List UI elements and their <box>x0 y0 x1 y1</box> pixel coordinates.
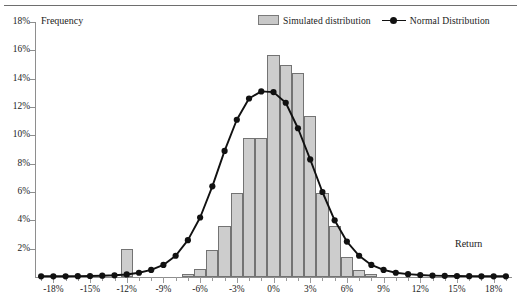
normal-curve-marker-dot <box>466 273 472 279</box>
y-axis-tick-mark <box>30 22 35 23</box>
x-axis-tick-mark <box>408 277 409 281</box>
x-axis-tick-mark <box>237 277 238 283</box>
normal-curve-marker-dot <box>160 262 166 268</box>
x-axis-tick-label: 9% <box>377 284 390 294</box>
plot-area <box>35 22 512 277</box>
x-axis-tick-mark <box>176 277 177 281</box>
normal-curve-marker-dot <box>136 270 142 276</box>
normal-curve-marker-dot <box>197 214 203 220</box>
x-axis-tick-label: -6% <box>192 284 208 294</box>
x-axis-tick-label: 15% <box>448 284 465 294</box>
x-axis-tick-mark <box>212 277 213 281</box>
normal-curve-marker-dot <box>258 88 264 94</box>
normal-curve-marker-dot <box>124 271 130 277</box>
x-axis-tick-mark <box>286 277 287 281</box>
normal-curve-marker-dot <box>185 237 191 243</box>
normal-curve-marker-dot <box>87 273 93 279</box>
line-series-normal-distribution <box>35 22 512 277</box>
normal-curve-marker-dot <box>221 148 227 154</box>
x-axis-tick-label: 18% <box>485 284 502 294</box>
y-axis-tick-label: 8% <box>6 159 30 168</box>
y-axis-tick-mark <box>30 79 35 80</box>
normal-curve-marker-dot <box>454 273 460 279</box>
normal-curve-marker-dot <box>234 117 240 123</box>
x-axis-tick-mark <box>139 277 140 281</box>
x-axis-tick-mark <box>127 277 128 283</box>
normal-curve-marker-dot <box>380 267 386 273</box>
normal-curve-marker-dot <box>209 183 215 189</box>
x-axis-tick-label: -3% <box>229 284 245 294</box>
top-divider-rule <box>4 5 517 6</box>
y-axis-tick-mark <box>30 107 35 108</box>
x-axis-tick-label: 3% <box>304 284 317 294</box>
normal-curve-marker-dot <box>99 273 105 279</box>
x-axis-tick-mark <box>347 277 348 283</box>
x-axis-tick-label: -15% <box>80 284 100 294</box>
x-axis-tick-label: -18% <box>43 284 63 294</box>
normal-curve-marker-dot <box>50 273 56 279</box>
y-axis-tick-label: 12% <box>6 102 30 111</box>
normal-curve-marker-dot <box>148 267 154 273</box>
x-axis-tick-mark <box>200 277 201 283</box>
normal-curve-marker-dot <box>295 125 301 131</box>
normal-curve-marker-dot <box>246 95 252 101</box>
normal-curve-marker-dot <box>270 89 276 95</box>
normal-curve-marker-dot <box>405 271 411 277</box>
distribution-chart-figure: Simulated distribution Normal Distributi… <box>0 0 521 305</box>
normal-curve-marker-dot <box>368 262 374 268</box>
normal-curve-marker-dot <box>429 272 435 278</box>
y-axis-tick-label: 14% <box>6 74 30 83</box>
normal-curve-marker-dot <box>307 156 313 162</box>
normal-curve-marker-dot <box>319 189 325 195</box>
y-axis-tick-labels: 18%16%14%12%10%8%6%4%2% <box>0 0 30 305</box>
y-axis-tick-label: 16% <box>6 45 30 54</box>
y-axis-tick-mark <box>30 135 35 136</box>
normal-curve-marker-dot <box>491 273 497 279</box>
x-axis-tick-mark <box>225 277 226 281</box>
y-axis-tick-mark <box>30 164 35 165</box>
x-axis-tick-mark <box>359 277 360 281</box>
x-axis-tick-label: 0% <box>267 284 280 294</box>
x-axis-tick-mark <box>151 277 152 281</box>
x-axis-tick-mark <box>261 277 262 281</box>
normal-curve-markers <box>38 88 509 279</box>
normal-curve-marker-dot <box>393 270 399 276</box>
y-axis-tick-mark <box>30 50 35 51</box>
normal-curve-marker-dot <box>332 217 338 223</box>
normal-curve-marker-dot <box>62 273 68 279</box>
y-axis-tick-mark <box>30 220 35 221</box>
x-axis-tick-mark <box>335 277 336 281</box>
y-axis-tick-label: 4% <box>6 215 30 224</box>
x-axis-tick-label: 12% <box>412 284 429 294</box>
y-axis-tick-mark <box>30 249 35 250</box>
x-axis-tick-mark <box>396 277 397 281</box>
x-axis-tick-mark <box>188 277 189 281</box>
normal-curve-marker-dot <box>283 100 289 106</box>
y-axis-tick-mark <box>30 192 35 193</box>
normal-curve-marker-dot <box>173 253 179 259</box>
x-axis-tick-mark <box>371 277 372 281</box>
x-axis-tick-mark <box>274 277 275 283</box>
normal-curve-marker-dot <box>75 273 81 279</box>
normal-curve-marker-dot <box>356 253 362 259</box>
normal-curve-marker-dot <box>417 272 423 278</box>
normal-curve-marker-dot <box>111 272 117 278</box>
y-axis-tick-label: 18% <box>6 17 30 26</box>
x-axis-tick-mark <box>298 277 299 281</box>
y-axis-tick-label: 10% <box>6 130 30 139</box>
x-axis-tick-label: -9% <box>156 284 172 294</box>
normal-curve-marker-dot <box>442 273 448 279</box>
normal-curve-marker-dot <box>503 273 509 279</box>
x-axis-tick-mark <box>249 277 250 281</box>
x-axis-tick-mark <box>322 277 323 281</box>
x-axis-tick-mark <box>163 277 164 283</box>
normal-curve-marker-dot <box>38 273 44 279</box>
x-axis-tick-mark <box>384 277 385 283</box>
normal-curve-marker-dot <box>478 273 484 279</box>
y-axis-tick-label: 6% <box>6 187 30 196</box>
y-axis-tick-label: 2% <box>6 244 30 253</box>
normal-curve-path <box>41 91 506 276</box>
x-axis-tick-label: 6% <box>341 284 354 294</box>
x-axis-tick-mark <box>310 277 311 283</box>
normal-curve-marker-dot <box>344 238 350 244</box>
